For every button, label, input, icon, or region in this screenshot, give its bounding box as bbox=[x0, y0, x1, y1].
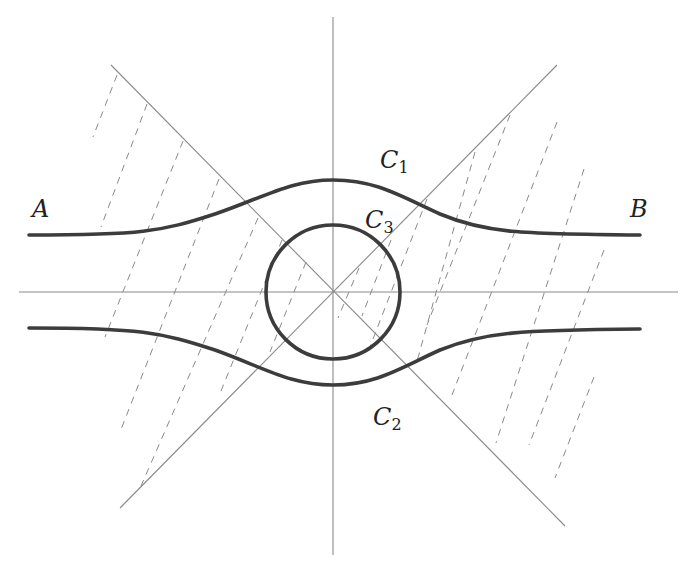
label-c2-sub: 2 bbox=[391, 415, 401, 434]
label-b: B bbox=[630, 197, 648, 221]
label-c3-base: C bbox=[365, 206, 383, 234]
diagonal-line-descending bbox=[111, 65, 565, 526]
label-c2: C2 bbox=[373, 405, 402, 433]
label-a: A bbox=[32, 197, 49, 221]
hatching-left bbox=[93, 75, 306, 486]
label-c3-sub: 3 bbox=[383, 218, 393, 237]
label-b-text: B bbox=[630, 195, 648, 223]
label-c1-base: C bbox=[380, 146, 398, 174]
label-c3: C3 bbox=[365, 208, 394, 236]
label-c1: C1 bbox=[380, 148, 409, 176]
diagram-canvas bbox=[0, 0, 692, 569]
label-a-text: A bbox=[32, 195, 49, 223]
curve-c2 bbox=[29, 328, 640, 385]
label-c2-base: C bbox=[373, 403, 391, 431]
diagonal-line-ascending bbox=[120, 65, 557, 508]
label-c1-sub: 1 bbox=[398, 158, 408, 177]
